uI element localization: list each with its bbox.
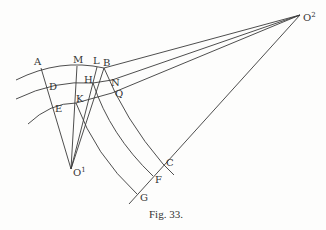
label-O1: O1 xyxy=(73,167,86,178)
label-F: F xyxy=(155,175,162,185)
arc-inner xyxy=(28,15,300,124)
label-H: H xyxy=(84,75,93,85)
label-Q: Q xyxy=(115,89,123,99)
label-M: M xyxy=(73,55,83,65)
label-N: N xyxy=(111,78,120,88)
label-E: E xyxy=(55,104,62,114)
label-G: G xyxy=(140,193,148,203)
label-K: K xyxy=(76,94,83,104)
label-A: A xyxy=(34,57,41,67)
label-O2: O2 xyxy=(303,12,316,23)
label-D: D xyxy=(49,82,57,92)
label-C: C xyxy=(166,158,174,168)
figure-caption: Fig. 33. xyxy=(149,208,183,220)
geometric-diagram xyxy=(0,0,326,230)
label-L: L xyxy=(93,56,100,66)
arc-outer xyxy=(16,15,300,80)
label-B: B xyxy=(103,58,110,68)
figure-33: A M L B D H N Q E K O1 O2 C F G Fig. 33. xyxy=(0,0,326,230)
arc-middle xyxy=(16,15,300,99)
